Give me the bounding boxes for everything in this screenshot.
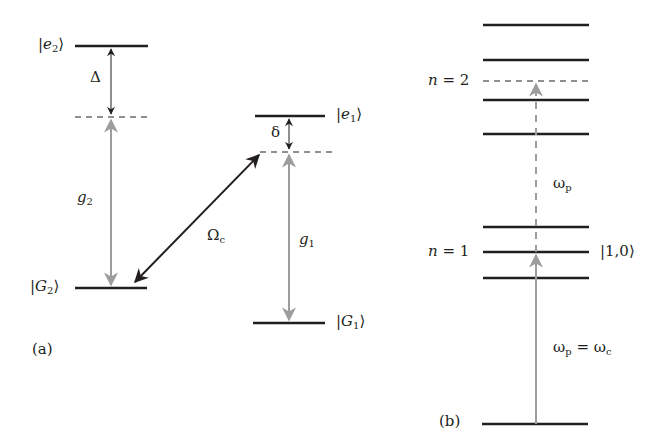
- panel-a-label: (a): [32, 342, 53, 357]
- label-state-1-0: |1,0⟩: [600, 244, 635, 259]
- label-n1: n = 1: [428, 244, 469, 259]
- label-omega-c: Ωc: [207, 228, 225, 243]
- label-G2: |G2⟩: [30, 279, 59, 294]
- label-n2: n = 2: [428, 73, 469, 88]
- label-delta: Δ: [90, 70, 101, 85]
- label-e2: |e2⟩: [38, 37, 64, 52]
- label-resonance: ωp = ωc: [553, 340, 612, 355]
- panel-b: [482, 25, 589, 424]
- label-g2: g2: [77, 190, 93, 205]
- label-omega-p: ωp: [553, 176, 572, 191]
- label-g1: g1: [299, 232, 315, 247]
- panel-b-label: (b): [439, 414, 460, 429]
- label-G1: |G1⟩: [336, 314, 365, 329]
- omega-c-arrow: [135, 155, 259, 282]
- label-e1: |e1⟩: [336, 107, 362, 122]
- label-small-delta: δ: [271, 125, 280, 140]
- panel-a: [75, 46, 333, 323]
